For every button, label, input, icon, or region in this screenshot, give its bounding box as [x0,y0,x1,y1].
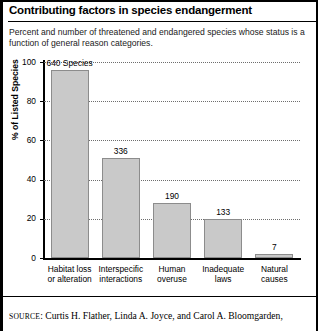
frame-bottom-rule [3,296,316,297]
y-tick-mark [40,101,44,102]
figure-panel: Contributing factors in species endanger… [0,0,323,331]
bar [51,70,89,258]
bar-chart: % of Listed Species 020406080100 640 Spe… [0,0,323,290]
category-label-line: causes [245,274,304,284]
bar [102,158,140,258]
bar-value-label: 336 [88,146,154,156]
bar-value-label: 7 [241,242,307,252]
plot-area: % of Listed Species 020406080100 640 Spe… [44,62,300,258]
y-tick-label: 20 [6,213,36,223]
source-text: Curtis H. Flather, Linda A. Joyce, and C… [45,310,283,321]
bar [255,254,293,258]
x-axis-line [43,258,301,260]
y-tick-mark [40,258,44,259]
bar-value-label: 133 [190,207,256,217]
y-tick-mark [40,140,44,141]
y-tick-label: 80 [6,96,36,106]
bar-value-label: 640 Species [37,58,103,68]
source-prefix: SOURCE [9,312,40,321]
source-note: SOURCE: Curtis H. Flather, Linda A. Joyc… [9,310,317,323]
category-label-line: Natural [245,264,304,274]
category-label: Naturalcauses [245,264,304,284]
y-axis-label: % of Listed Species [10,20,20,140]
bar [153,203,191,258]
y-tick-mark [40,219,44,220]
y-tick-label: 100 [6,57,36,67]
y-tick-mark [40,180,44,181]
bar-value-label: 190 [139,191,205,201]
y-tick-label: 40 [6,174,36,184]
y-tick-label: 0 [6,253,36,263]
bar [204,219,242,258]
y-tick-label: 60 [6,135,36,145]
